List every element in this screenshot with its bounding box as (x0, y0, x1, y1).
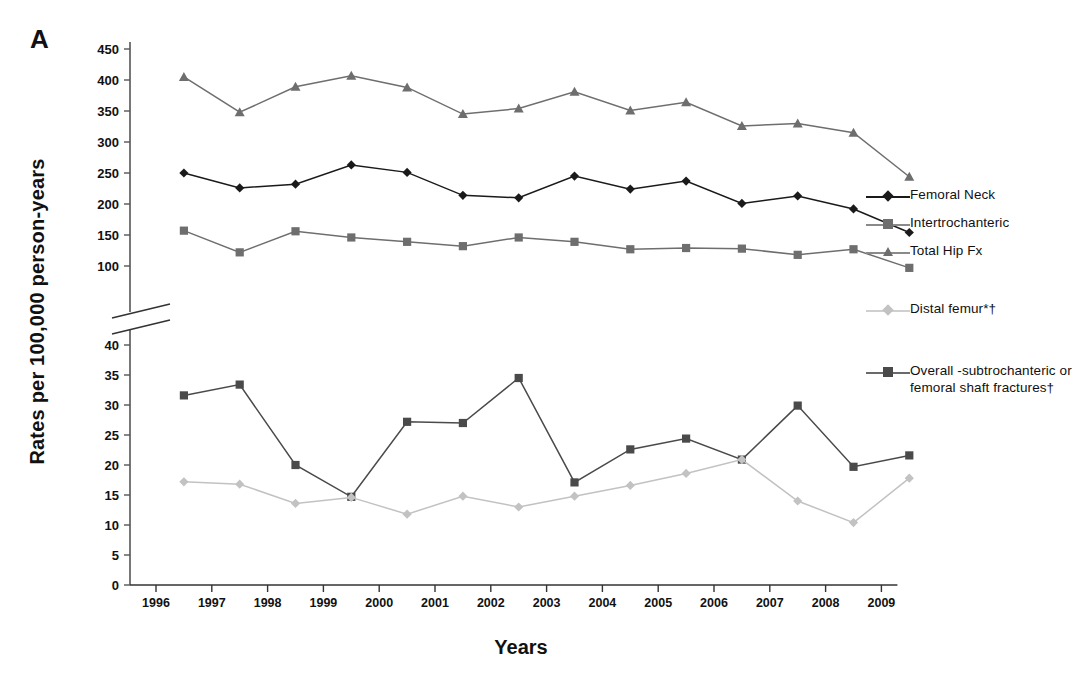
data-point-triangle (346, 71, 356, 80)
data-point-diamond (403, 168, 412, 177)
x-tick-label: 2007 (756, 596, 784, 610)
y-tick-label: 150 (97, 228, 119, 243)
data-point-diamond (291, 180, 300, 189)
legend-spacer (866, 270, 1092, 300)
legend-spacer (866, 328, 1092, 362)
data-point-diamond (458, 492, 467, 501)
x-tick-label: 1998 (254, 596, 282, 610)
data-point-square (849, 463, 857, 471)
y-tick-label: 450 (97, 42, 119, 57)
data-point-square (236, 248, 244, 256)
y-tick-label: 10 (105, 518, 119, 533)
data-point-diamond (514, 502, 523, 511)
x-tick-label: 1999 (309, 596, 337, 610)
axis-break-mark (112, 320, 170, 334)
y-tick-label: 30 (105, 398, 119, 413)
x-tick-label: 2009 (867, 596, 895, 610)
data-point-triangle (179, 72, 189, 81)
data-point-diamond (626, 185, 635, 194)
square-marker-icon (866, 216, 910, 233)
data-point-square (459, 419, 467, 427)
diamond-marker-icon (866, 188, 910, 205)
data-point-diamond (235, 183, 244, 192)
data-point-diamond (458, 191, 467, 200)
data-point-square (403, 238, 411, 246)
y-tick-label: 100 (97, 259, 119, 274)
data-point-square (180, 227, 188, 235)
x-tick-label: 1996 (142, 596, 170, 610)
data-point-square (515, 374, 523, 382)
series-line (184, 165, 909, 233)
y-tick-label: 0 (112, 578, 119, 593)
data-point-triangle (235, 107, 245, 116)
data-point-square (291, 227, 299, 235)
legend-label: Overall -subtrochanteric or femoral shaf… (910, 362, 1092, 396)
y-tick-label: 15 (105, 488, 119, 503)
data-point-square (570, 238, 578, 246)
data-point-square (794, 402, 802, 410)
y-tick-label: 300 (97, 135, 119, 150)
y-tick-label: 25 (105, 428, 119, 443)
series-overall-subtrochanteric-or-femoral-shaft-fractures (180, 374, 914, 501)
data-point-diamond (682, 176, 691, 185)
data-point-diamond (179, 168, 188, 177)
data-point-square (403, 418, 411, 426)
data-point-diamond (291, 499, 300, 508)
data-point-square (459, 242, 467, 250)
data-point-diamond (347, 160, 356, 169)
legend-label: Femoral Neck (910, 186, 995, 203)
diamond-marker-icon (866, 302, 910, 319)
legend-item-overall-subtrochanteric: Overall -subtrochanteric or femoral shaf… (866, 362, 1092, 396)
x-tick-label: 2000 (365, 596, 393, 610)
x-tick-label: 2005 (644, 596, 672, 610)
y-tick-label: 5 (112, 548, 119, 563)
data-point-triangle (570, 87, 580, 96)
data-point-square (570, 478, 578, 486)
x-tick-label: 2002 (477, 596, 505, 610)
data-point-diamond (403, 510, 412, 519)
x-tick-label: 2001 (421, 596, 449, 610)
series-total-hip-fx (179, 71, 914, 181)
y-tick-label: 350 (97, 104, 119, 119)
y-tick-label: 20 (105, 458, 119, 473)
data-point-diamond (570, 172, 579, 181)
figure-panel-a: A Rates per 100,000 person-years Years 4… (0, 0, 1092, 690)
data-point-diamond (737, 199, 746, 208)
legend-label: Total Hip Fx (910, 242, 982, 259)
x-tick-label: 2004 (588, 596, 616, 610)
x-tick-label: 2006 (700, 596, 728, 610)
data-point-square (794, 251, 802, 259)
data-point-square (626, 445, 634, 453)
data-point-square (738, 245, 746, 253)
series-intertrochanteric (180, 227, 914, 272)
data-point-diamond (626, 481, 635, 490)
data-point-diamond (235, 480, 244, 489)
triangle-marker-icon (866, 244, 910, 261)
y-tick-label: 250 (97, 166, 119, 181)
data-point-diamond (179, 477, 188, 486)
data-point-square (347, 233, 355, 241)
data-point-diamond (514, 193, 523, 202)
x-tick-label: 1997 (198, 596, 226, 610)
data-point-square (849, 245, 857, 253)
data-point-square (626, 245, 634, 253)
data-point-square (291, 461, 299, 469)
data-point-square (515, 233, 523, 241)
series-line (184, 378, 909, 497)
series-distal-femur (179, 455, 914, 527)
legend-item-distal-femur: Distal femur*† (866, 300, 1092, 319)
legend-item-total-hip-fx: Total Hip Fx (866, 242, 1092, 261)
data-point-diamond (682, 469, 691, 478)
data-point-square (905, 451, 913, 459)
series-line (184, 231, 909, 268)
data-point-diamond (793, 191, 802, 200)
legend-label: Intertrochanteric (910, 214, 1009, 231)
legend-item-femoral-neck: Femoral Neck (866, 186, 1092, 205)
square-marker-icon (866, 364, 910, 381)
data-point-square (682, 435, 690, 443)
data-point-square (682, 244, 690, 252)
x-tick-label: 2003 (533, 596, 561, 610)
series-femoral-neck (179, 160, 914, 237)
legend-label: Distal femur*† (910, 300, 996, 317)
chart-legend: Femoral Neck Intertrochanteric Total Hip… (866, 186, 1092, 405)
